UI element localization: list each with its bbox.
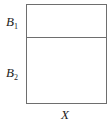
row-divider [26, 37, 107, 38]
bottom-label-x: X [61, 108, 69, 121]
row-label-b1: B1 [6, 15, 18, 31]
outer-rectangle [26, 4, 107, 104]
row-label-b2: B2 [6, 66, 18, 82]
